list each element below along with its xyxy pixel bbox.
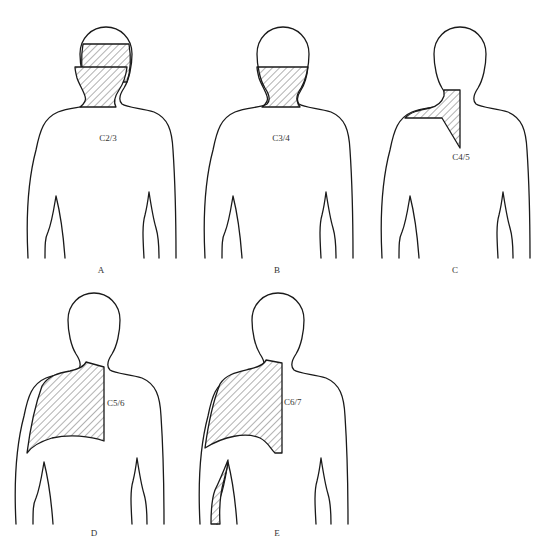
panel-c: C4/5 C [381, 27, 530, 275]
panel-letter-e: E [274, 528, 280, 538]
panel-b-body: C3/4 B [204, 27, 353, 275]
panel-e: C6/7 E [199, 293, 348, 538]
hatched-region-c5-6 [27, 362, 104, 453]
diagram-canvas: C2/3 A C3/4 B C4/5 C C5/6 D C6/7 E [0, 0, 552, 557]
panel-letter-c: C [452, 265, 458, 275]
level-label-c4-5: C4/5 [452, 152, 470, 162]
panel-a: C2/3 A [27, 27, 176, 275]
hatched-region-c6-7 [205, 360, 282, 453]
level-label-c2-3: C2/3 [99, 133, 117, 143]
panel-b [75, 67, 127, 107]
hatched-region-c3-4 [75, 67, 127, 107]
level-label-c5-6: C5/6 [107, 398, 125, 408]
panel-letter-b: B [274, 265, 280, 275]
level-label-c6-7: C6/7 [284, 397, 302, 407]
level-label-c3-4: C3/4 [272, 133, 290, 143]
hatched-region-c6-7-arm [211, 460, 228, 524]
panel-letter-d: D [91, 528, 98, 538]
hatched-region-c4-5 [405, 90, 460, 148]
panel-letter-a: A [98, 265, 105, 275]
panel-d: C5/6 D [15, 293, 164, 538]
